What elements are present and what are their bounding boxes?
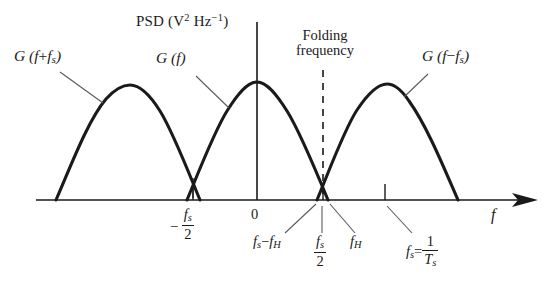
half-fs-num-sub: s — [320, 239, 324, 250]
curve-label-g-f-minus-fs: G (f−fs) — [422, 48, 469, 66]
fs-eq-numerator: 1 — [422, 234, 438, 251]
curve-label-g-f-plus-fs: G (f+fs) — [14, 48, 61, 66]
neg-half-fs-num-sub: s — [188, 212, 192, 223]
psd-aliasing-figure: PSD (V2 Hz−1) G (f+fs) G (f) G (f−fs) Fo… — [0, 0, 553, 282]
leader-line-g-f — [196, 76, 229, 108]
leader-line-fh — [330, 204, 355, 233]
fs-eq-den-sub: s — [432, 257, 436, 268]
curve-g-f-minus-fs — [317, 84, 458, 200]
leader-line-g-f-plus-fs — [60, 72, 103, 103]
leader-line-fs-minus-fh — [285, 204, 316, 233]
folding-frequency-line2: frequency — [282, 43, 368, 58]
neg-half-fs-numerator: fs — [182, 207, 194, 226]
leader-line-fs — [387, 206, 412, 233]
half-fs-denominator: 2 — [314, 253, 326, 269]
y-axis-title-open: (V — [164, 13, 184, 29]
tick-label-fh: fH — [350, 234, 362, 251]
fs-eq-operator: = — [414, 243, 422, 259]
y-axis-title-unit: Hz — [190, 13, 212, 29]
neg-half-fs-fraction: fs2 — [182, 207, 194, 241]
y-axis-title: PSD (V2 Hz−1) — [136, 12, 228, 29]
tick-label-neg-half-fs: − fs2 — [170, 207, 194, 241]
curve-label-right-prefix: G ( — [422, 47, 442, 64]
folding-frequency-line1: Folding — [282, 28, 368, 43]
fh-sub: H — [354, 239, 362, 250]
fs-eq-fraction: 1Ts — [422, 234, 438, 268]
y-axis-title-exponent-2: −1 — [212, 12, 224, 23]
leader-line-g-f-minus-fs — [404, 74, 428, 97]
curve-label-right-op: − — [447, 47, 456, 64]
x-axis-label: f — [491, 207, 495, 224]
curve-label-center-prefix: G ( — [156, 49, 176, 66]
tick-label-fs-equals: fs=1Ts — [406, 234, 438, 268]
fs-minus-fh-b-sub: H — [273, 239, 281, 250]
curve-label-g-f: G (f) — [156, 50, 186, 66]
curve-label-left-close: ) — [56, 47, 61, 64]
neg-half-fs-denominator: 2 — [182, 226, 194, 242]
half-fs-numerator: fs — [314, 234, 326, 253]
curve-label-right-close: ) — [464, 47, 469, 64]
curve-label-left-op: + — [39, 47, 48, 64]
y-axis-title-close: ) — [223, 13, 228, 29]
curve-label-center-close: ) — [181, 49, 186, 66]
half-fs-fraction: fs2 — [314, 234, 326, 268]
curve-g-f-plus-fs — [56, 85, 200, 200]
folding-frequency-annotation: Folding frequency — [282, 28, 368, 58]
y-axis-title-name: PSD — [136, 13, 164, 29]
tick-label-fs-minus-fh: fs−fH — [253, 234, 281, 251]
tick-label-zero: 0 — [251, 207, 258, 222]
neg-half-fs-sign: − — [170, 218, 178, 234]
fs-eq-denominator: Ts — [422, 251, 438, 269]
tick-label-half-fs: fs2 — [314, 234, 326, 268]
curve-label-left-prefix: G ( — [14, 47, 34, 64]
